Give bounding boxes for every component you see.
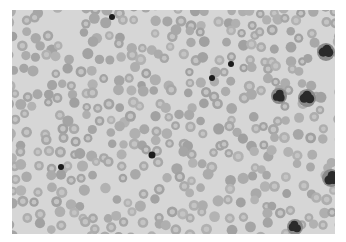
red-blood-cell xyxy=(82,48,93,59)
red-blood-cell xyxy=(135,102,144,111)
red-blood-cell xyxy=(267,145,277,155)
red-blood-cell xyxy=(262,171,271,180)
red-blood-cell xyxy=(95,55,104,64)
red-blood-cell xyxy=(197,52,208,63)
red-blood-cell xyxy=(58,79,66,87)
red-blood-cell xyxy=(106,222,116,232)
red-blood-cell xyxy=(260,181,270,191)
red-blood-cell xyxy=(220,68,229,77)
red-blood-cell xyxy=(139,189,149,199)
red-blood-cell xyxy=(66,176,75,185)
red-blood-cell xyxy=(184,110,194,120)
red-blood-cell xyxy=(237,29,245,37)
red-blood-cell xyxy=(171,121,180,130)
blood-smear-micrograph xyxy=(12,10,335,234)
red-blood-cell xyxy=(247,63,257,73)
red-blood-cell xyxy=(224,121,234,131)
red-blood-cell xyxy=(186,214,195,223)
red-blood-cell xyxy=(238,133,248,143)
red-blood-cell xyxy=(270,133,279,142)
dark-inclusion-dot xyxy=(58,164,64,170)
micrograph-canvas xyxy=(12,10,335,234)
red-blood-cell xyxy=(286,27,295,36)
red-blood-cell xyxy=(150,74,161,85)
red-blood-cell xyxy=(27,65,38,76)
dark-inclusion-dot xyxy=(109,14,115,20)
red-blood-cell xyxy=(44,146,54,156)
red-blood-cell xyxy=(171,24,182,35)
red-blood-cell xyxy=(318,134,327,143)
red-blood-cell xyxy=(118,15,128,25)
red-blood-cell xyxy=(21,51,30,60)
red-blood-cell xyxy=(135,201,146,212)
red-blood-cell xyxy=(41,49,51,59)
red-blood-cell xyxy=(105,56,114,65)
red-blood-cell xyxy=(263,218,273,228)
red-blood-cell xyxy=(319,124,328,133)
red-blood-cell xyxy=(88,125,97,134)
red-blood-cell xyxy=(106,128,115,137)
red-blood-cell xyxy=(262,15,271,24)
red-blood-cell xyxy=(309,112,319,122)
red-blood-cell xyxy=(225,213,235,223)
red-blood-cell xyxy=(41,134,52,145)
red-blood-cell xyxy=(213,17,223,27)
red-blood-cell xyxy=(179,49,189,59)
red-blood-cell xyxy=(196,27,205,36)
red-blood-cell xyxy=(117,149,127,159)
red-blood-cell xyxy=(35,218,45,228)
red-blood-cell xyxy=(55,206,66,217)
red-blood-cell xyxy=(187,150,197,160)
leukocyte xyxy=(317,43,335,61)
red-blood-cell xyxy=(174,110,184,120)
red-blood-cell xyxy=(77,160,88,171)
red-blood-cell xyxy=(52,93,62,103)
red-blood-cell xyxy=(307,29,317,39)
red-blood-cell xyxy=(55,147,66,158)
red-blood-cell xyxy=(35,209,46,220)
red-blood-cell xyxy=(150,111,160,121)
red-blood-cell xyxy=(196,183,205,192)
red-blood-cell xyxy=(35,41,44,50)
red-blood-cell xyxy=(238,173,249,184)
red-blood-cell xyxy=(114,75,125,86)
dark-inclusion-dot xyxy=(209,75,215,81)
red-blood-cell xyxy=(286,206,295,215)
red-blood-cell xyxy=(259,122,268,131)
red-blood-cell xyxy=(249,112,259,122)
red-blood-cell xyxy=(225,184,235,194)
red-blood-cell xyxy=(69,208,79,218)
red-blood-cell xyxy=(54,41,63,50)
red-blood-cell xyxy=(82,110,90,118)
red-blood-cell xyxy=(119,140,127,148)
red-blood-cell xyxy=(185,189,194,198)
red-blood-cell xyxy=(111,211,121,221)
red-blood-cell xyxy=(105,31,114,40)
red-blood-cell xyxy=(139,161,149,171)
red-blood-cell xyxy=(107,116,116,125)
red-blood-cell xyxy=(80,28,88,36)
red-blood-cell xyxy=(52,69,61,78)
red-blood-cell xyxy=(268,124,279,135)
dark-inclusion-dot xyxy=(149,152,156,159)
red-blood-cell xyxy=(22,213,32,223)
red-blood-cell xyxy=(56,187,67,198)
red-blood-cell xyxy=(315,92,326,103)
red-blood-cell xyxy=(318,220,327,229)
red-blood-cell xyxy=(84,134,93,143)
red-blood-cell xyxy=(74,148,85,159)
red-blood-cell xyxy=(298,79,307,88)
red-blood-cell xyxy=(17,40,28,51)
red-blood-cell xyxy=(267,24,278,35)
red-blood-cell xyxy=(34,161,44,171)
red-blood-cell xyxy=(246,89,257,100)
red-blood-cell xyxy=(293,160,301,168)
red-blood-cell xyxy=(44,90,54,100)
red-blood-cell xyxy=(27,102,36,111)
red-blood-cell xyxy=(209,148,218,157)
red-blood-cell xyxy=(269,181,280,192)
red-blood-cell xyxy=(222,38,231,47)
red-blood-cell xyxy=(17,196,28,207)
red-blood-cell xyxy=(294,34,303,43)
red-blood-cell xyxy=(256,42,266,52)
